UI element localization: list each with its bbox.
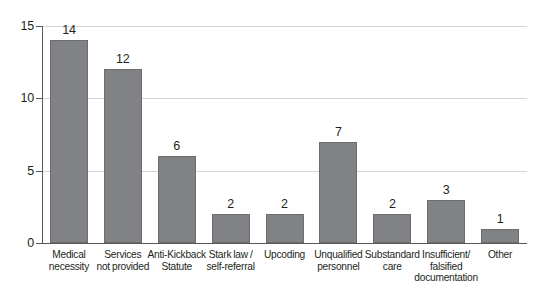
bar-value-label: 12	[103, 53, 143, 65]
y-axis-tick-label: 5	[2, 165, 34, 177]
bar[interactable]	[104, 69, 142, 243]
bar-value-label: 6	[157, 140, 197, 152]
bar[interactable]	[427, 200, 465, 243]
bar[interactable]	[50, 40, 88, 243]
y-axis-tick-label: 0	[2, 237, 34, 249]
bar-value-label: 1	[480, 213, 520, 225]
y-axis-tick-label: 10	[2, 92, 34, 104]
bar-value-label: 2	[211, 198, 251, 210]
bar-chart: 051015 14126227231 MedicalnecessityServi…	[0, 0, 547, 302]
bar-value-label: 2	[372, 198, 412, 210]
category-label-line: Other	[467, 249, 533, 261]
y-axis-tick-label-wrap: 15	[0, 20, 34, 32]
x-axis-baseline	[42, 243, 527, 244]
bar[interactable]	[481, 229, 519, 243]
y-axis-tick-label-wrap: 0	[0, 237, 34, 249]
bar-value-label: 7	[318, 126, 358, 138]
bar[interactable]	[158, 156, 196, 243]
y-axis-tick-label: 15	[2, 20, 34, 32]
bar[interactable]	[212, 214, 250, 243]
bar-value-label: 3	[426, 184, 466, 196]
category-label-line: documentation	[413, 272, 479, 284]
y-axis-tick-label-wrap: 10	[0, 92, 34, 104]
bar[interactable]	[319, 142, 357, 243]
bar[interactable]	[373, 214, 411, 243]
category-label-line: falsified	[413, 261, 479, 273]
bar-value-label: 14	[49, 24, 89, 36]
bar[interactable]	[266, 214, 304, 243]
bar-value-label: 2	[265, 198, 305, 210]
y-axis-tick-label-wrap: 5	[0, 165, 34, 177]
category-label-line: self-referral	[198, 261, 264, 273]
x-axis-category-label: Other	[467, 249, 533, 261]
plot-area: 14126227231	[42, 20, 527, 243]
